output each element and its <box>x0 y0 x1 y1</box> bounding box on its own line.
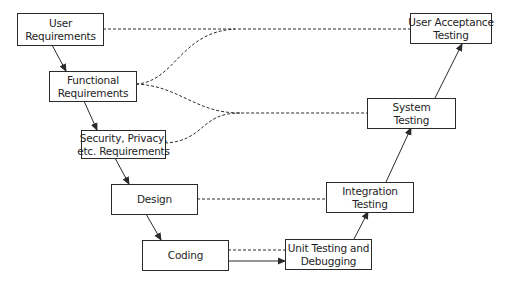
box-coding: Coding <box>142 240 229 271</box>
box-functional-requirements: Functional Requirements <box>49 71 137 102</box>
box-label-line: Requirements <box>58 87 129 100</box>
box-label-line: Integration <box>342 185 398 198</box>
box-label-line: Functional <box>67 74 119 87</box>
arrow-integration-to-system <box>386 128 411 182</box>
box-label-line: User <box>49 17 72 30</box>
arrow-unit-to-integration <box>354 212 368 239</box>
v-model-diagram: User Requirements Functional Requirement… <box>0 0 516 287</box>
arrow-design-to-coding <box>146 214 161 240</box>
arrow-security-to-design <box>115 158 129 184</box>
box-unit-testing: Unit Testing and Debugging <box>285 239 372 270</box>
box-label-line: etc. Requirements <box>77 145 170 158</box>
box-user-requirements: User Requirements <box>17 13 104 46</box>
dashed-link-functional-to-system <box>136 84 367 113</box>
arrow-functional-to-security <box>84 101 97 130</box>
box-label-line: Testing <box>394 114 430 127</box>
box-label-line: Debugging <box>301 255 357 268</box>
dashed-link-security-to-system <box>165 113 240 143</box>
box-label-line: User Acceptance <box>408 16 493 29</box>
box-user-acceptance-testing: User Acceptance Testing <box>410 13 492 44</box>
box-design: Design <box>111 184 198 215</box>
box-label-line: Unit Testing and <box>288 242 370 255</box>
box-label-line: System <box>393 101 431 114</box>
dashed-link-functional-to-uat <box>136 29 235 84</box>
box-label-line: Coding <box>168 249 203 262</box>
box-label-line: Testing <box>352 198 388 211</box>
box-security-requirements: Security, Privacy, etc. Requirements <box>81 130 166 159</box>
box-system-testing: System Testing <box>367 98 456 129</box>
box-label-line: Security, Privacy, <box>80 132 168 145</box>
arrow-system-to-uat <box>435 44 462 98</box>
box-label-line: Requirements <box>25 30 96 43</box>
arrow-user-req-to-functional <box>52 45 66 71</box>
box-label-line: Testing <box>433 29 469 42</box>
box-label-line: Design <box>137 193 172 206</box>
box-integration-testing: Integration Testing <box>326 182 414 213</box>
